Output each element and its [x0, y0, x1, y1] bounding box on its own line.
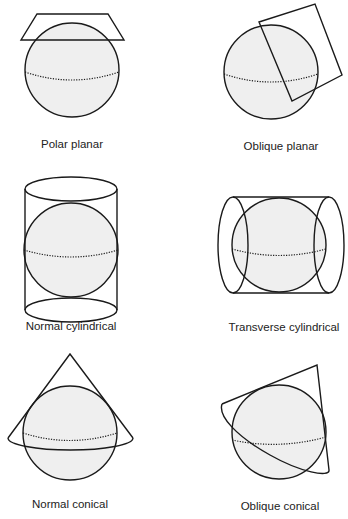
projection-diagram: Polar planar Oblique planar Normal cylin… [0, 0, 348, 519]
polar-planar-figure: Polar planar [21, 14, 124, 150]
label-oblique-planar: Oblique planar [244, 140, 319, 152]
oblique-conical-figure: Oblique conical [221, 365, 329, 512]
transverse-cylindrical-figure: Transverse cylindrical [218, 197, 344, 333]
globe-sphere [24, 203, 118, 297]
label-normal-cylindrical: Normal cylindrical [26, 320, 117, 332]
label-transverse-cylindrical: Transverse cylindrical [229, 321, 340, 333]
globe-sphere [232, 198, 326, 292]
globe-sphere [232, 385, 326, 479]
normal-cylindrical-figure: Normal cylindrical [24, 177, 118, 332]
globe-sphere [23, 386, 117, 480]
label-oblique-conical: Oblique conical [241, 500, 320, 512]
globe-sphere [224, 25, 318, 119]
normal-conical-figure: Normal conical [8, 354, 133, 510]
cylinder-top-ellipse [25, 177, 117, 201]
globe-sphere [25, 23, 119, 117]
label-normal-conical: Normal conical [32, 498, 108, 510]
label-polar-planar: Polar planar [41, 138, 103, 150]
cylinder-bottom-ellipse [25, 298, 117, 322]
oblique-planar-figure: Oblique planar [224, 4, 342, 152]
